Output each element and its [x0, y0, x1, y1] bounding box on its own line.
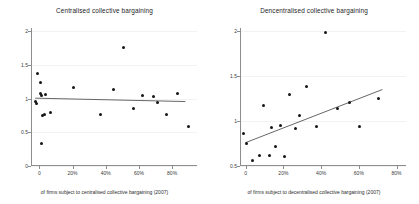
y-tick-label-0: 0.5 — [230, 163, 237, 169]
data-point — [251, 159, 254, 162]
data-point — [165, 113, 168, 116]
y-tick-label-1: 0.5 — [21, 129, 28, 135]
regression-line — [31, 31, 197, 166]
data-point — [122, 46, 125, 49]
data-point — [294, 127, 297, 130]
data-point — [112, 88, 115, 91]
y-tick-label-2: 1 — [25, 96, 28, 102]
scatter-plot-figure: Centralised collective bargaining 00.511… — [0, 0, 419, 204]
x-tick-1 — [73, 166, 74, 169]
y-tick-label-3: 1.5 — [21, 62, 28, 68]
data-point — [99, 113, 102, 116]
x-tick-0 — [39, 166, 40, 169]
y-tick-label-2: 1.5 — [230, 73, 237, 79]
x-tick-label-0: 0 — [244, 170, 247, 176]
regression-line — [240, 31, 406, 166]
y-tick-label-0: 0 — [25, 163, 28, 169]
gridline-y-0 — [240, 166, 406, 167]
x-tick-label-2: 40% — [316, 170, 326, 176]
x-tick-label-0: 0 — [38, 170, 41, 176]
data-point — [44, 93, 47, 96]
x-axis-caption-left: of firms subject to centralised collecti… — [0, 189, 209, 195]
x-tick-label-3: 60% — [134, 170, 144, 176]
plot-area-right: 0.511.52020%40%60%80% — [240, 31, 406, 166]
chart-title-right: Dencentralised collective bargaining — [209, 7, 419, 14]
data-point — [43, 113, 46, 116]
data-point — [315, 125, 318, 128]
data-point — [348, 101, 351, 104]
x-tick-label-3: 60% — [354, 170, 364, 176]
chart-panel-centralised: Centralised collective bargaining 00.511… — [0, 0, 209, 204]
data-point — [156, 101, 159, 104]
x-tick-4 — [397, 166, 398, 169]
data-point — [132, 107, 135, 110]
x-tick-label-1: 20% — [278, 170, 288, 176]
x-tick-label-1: 20% — [67, 170, 77, 176]
y-tick-0 — [28, 166, 31, 167]
data-point — [39, 81, 42, 84]
x-tick-label-2: 40% — [101, 170, 111, 176]
data-point — [152, 95, 155, 98]
data-point — [336, 107, 339, 110]
x-axis-caption-right: of firms subject to decentralised collec… — [209, 189, 419, 195]
data-point — [268, 154, 271, 157]
x-tick-3 — [139, 166, 140, 169]
y-tick-label-3: 2 — [234, 28, 237, 34]
chart-title-left: Centralised collective bargaining — [0, 7, 209, 14]
y-tick-label-4: 2 — [25, 28, 28, 34]
x-tick-1 — [283, 166, 284, 169]
x-tick-label-4: 80% — [392, 170, 402, 176]
y-tick-0 — [237, 166, 240, 167]
x-tick-label-4: 80% — [167, 170, 177, 176]
x-tick-2 — [106, 166, 107, 169]
x-tick-3 — [359, 166, 360, 169]
data-point — [270, 126, 273, 129]
data-point — [298, 114, 301, 117]
x-tick-4 — [172, 166, 173, 169]
plot-area-left: 00.511.52020%40%60%80% — [31, 31, 197, 166]
data-point — [40, 94, 43, 97]
y-tick-label-1: 1 — [234, 118, 237, 124]
x-tick-0 — [246, 166, 247, 169]
data-point — [283, 155, 286, 158]
data-point — [176, 92, 179, 95]
x-tick-2 — [321, 166, 322, 169]
